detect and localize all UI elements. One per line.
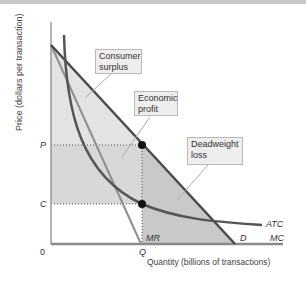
price-tick-c: C [40,200,47,209]
mc-label: MC [270,234,284,243]
economic-profit-line2: profit [138,104,174,115]
atc-at-q-point [138,200,146,208]
quantity-tick-q: Q [139,248,146,257]
consumer-surplus-line1: Consumer [99,51,138,62]
atc-label: ATC [266,220,283,229]
monopoly-diagram: Consumer surplus Economic profit Deadwei… [0,0,306,281]
economic-profit-callout: Economic profit [134,91,178,116]
economic-profit-line1: Economic [138,93,174,104]
x-axis-label: Quantity (billions of transactions) [147,258,270,267]
y-axis-label: Price (dollars per transaction) [14,21,24,131]
consumer-surplus-callout: Consumer surplus [95,49,142,74]
deadweight-loss-leader [177,165,208,200]
origin-label: 0 [40,248,45,257]
consumer-surplus-line2: surplus [99,62,138,73]
mr-label: MR [146,234,160,243]
monopoly-price-point [138,141,146,149]
deadweight-loss-callout: Deadweight loss [187,137,243,165]
deadweight-loss-line2: loss [191,150,239,161]
price-tick-p: P [40,141,46,150]
demand-label: D [240,234,247,243]
deadweight-loss-line1: Deadweight [191,139,239,150]
